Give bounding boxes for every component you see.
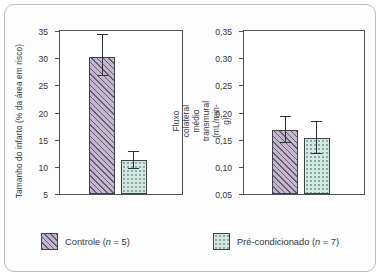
- bar-group-infarct: [60, 31, 182, 194]
- y-axis-title-infarct-text: Tamanho do infarto (% da área em risco): [14, 44, 24, 198]
- y-tick-label-005: 0,05: [215, 190, 232, 200]
- bar-control-errorbar-lower-cap: [97, 75, 108, 76]
- y-tick-label-10: 10: [38, 163, 48, 173]
- y-axis-title-infarct: Tamanho do infarto (% da área em risco): [11, 19, 27, 223]
- bar-control-errorbar-lower-cap: [280, 142, 291, 143]
- bar-control: [89, 57, 115, 194]
- y-tick-label-35: 35: [38, 27, 48, 37]
- legend-label-preconditioned: Pré-condicionado (n = 7): [237, 237, 339, 247]
- legend-swatch-control-icon: [41, 233, 58, 250]
- y-tick-label-15: 15: [38, 136, 48, 146]
- y-tick-label-020: 0,20: [215, 109, 232, 119]
- bar-control-errorbar: [102, 35, 103, 76]
- y-tick-label-5: 5: [43, 190, 48, 200]
- plot-area-infarct: 35 30 25 20 15 10 5: [59, 30, 183, 195]
- bar-control-errorbar-upper-cap: [280, 116, 291, 117]
- figure-frame: Tamanho do infarto (% da área em risco) …: [4, 4, 376, 272]
- y-tick-label-20: 20: [38, 109, 48, 119]
- bar-preconditioned-errorbar-upper-cap: [128, 151, 139, 152]
- legend-n-value-control: = 5): [114, 237, 130, 247]
- legend-item-control: Controle (n = 5): [41, 233, 130, 250]
- bar-group-flow: [244, 31, 364, 194]
- bar-preconditioned-errorbar-lower-cap: [311, 153, 322, 154]
- legend-n-value-preconditioned: = 7): [323, 237, 339, 247]
- y-tick-005: 0,05: [239, 194, 244, 195]
- legend: Controle (n = 5) Pré-condicionado (n = 7…: [5, 233, 377, 263]
- legend-label-control-text: Controle: [65, 237, 100, 247]
- legend-label-control: Controle (n = 5): [65, 237, 130, 247]
- chart-panel-infarct-size: Tamanho do infarto (% da área em risco) …: [13, 19, 189, 223]
- legend-swatch-preconditioned-icon: [213, 233, 230, 250]
- y-tick-label-030: 0,30: [215, 54, 232, 64]
- y-tick-label-035: 0,35: [215, 27, 232, 37]
- bar-control-errorbar: [285, 117, 286, 143]
- bar-preconditioned-errorbar-lower-cap: [128, 168, 139, 169]
- y-tick-5: 5: [55, 194, 60, 195]
- legend-n-symbol-control: n: [106, 237, 111, 247]
- y-tick-label-010: 0,10: [215, 163, 232, 173]
- plot-area-flow: 0,35 0,30 0,25 0,20 0,15 0,10 0,05: [243, 30, 365, 195]
- bar-control-errorbar-upper-cap: [97, 34, 108, 35]
- y-tick-label-30: 30: [38, 54, 48, 64]
- bar-preconditioned-errorbar: [133, 152, 134, 169]
- y-axis-title-flow: Fluxo colateral médio transmural(mL/min-…: [193, 19, 209, 223]
- legend-label-preconditioned-text: Pré-condicionado: [237, 237, 309, 247]
- y-tick-label-25: 25: [38, 81, 48, 91]
- y-axis-title-flow-line1: Fluxo colateral médio transmural: [171, 101, 211, 141]
- bar-preconditioned-errorbar-upper-cap: [311, 121, 322, 122]
- y-tick-label-015: 0,15: [215, 136, 232, 146]
- bar-preconditioned-errorbar: [316, 122, 317, 155]
- legend-n-symbol-preconditioned: n: [315, 237, 320, 247]
- legend-item-preconditioned: Pré-condicionado (n = 7): [213, 233, 339, 250]
- chart-panel-collateral-flow: Fluxo colateral médio transmural(mL/min-…: [195, 19, 371, 223]
- y-tick-label-025: 0,25: [215, 81, 232, 91]
